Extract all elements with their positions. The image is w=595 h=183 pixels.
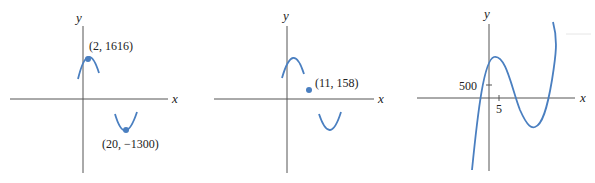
local-max-curve xyxy=(282,58,304,78)
local-max-point xyxy=(85,56,91,62)
inflection-point xyxy=(306,87,312,93)
y-tick-label: 500 xyxy=(459,79,477,93)
local-min-point xyxy=(123,127,129,133)
x-tick-label: 5 xyxy=(496,102,502,116)
x-axis-label: x xyxy=(377,91,384,106)
graph-1: x y (2, 1616) (20, −1300) xyxy=(10,10,178,173)
y-axis-label: y xyxy=(482,6,490,21)
local-min-label: (20, −1300) xyxy=(102,137,159,151)
x-axis-label: x xyxy=(171,91,178,106)
local-max-label: (2, 1616) xyxy=(89,39,133,53)
figure-canvas: x y (2, 1616) (20, −1300) x y (11, 158) … xyxy=(0,0,595,183)
local-min-curve xyxy=(319,112,341,130)
inflection-label: (11, 158) xyxy=(315,76,359,90)
cubic-curve xyxy=(472,22,556,170)
graph-3: x y 500 5 xyxy=(417,6,586,171)
graph-2: x y (11, 158) xyxy=(214,8,384,173)
y-axis-label: y xyxy=(281,8,289,23)
x-axis-label: x xyxy=(579,90,586,105)
y-axis-label: y xyxy=(74,10,82,25)
